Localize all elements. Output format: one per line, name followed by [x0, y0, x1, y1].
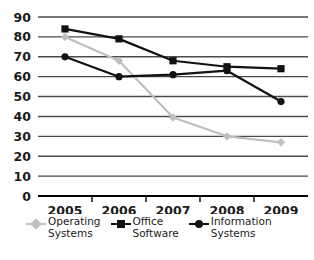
y-tick-label: 60: [14, 69, 32, 84]
legend-marker-diamond-icon: [26, 217, 46, 231]
y-tick-label: 20: [14, 149, 32, 164]
x-tick-label: 2008: [210, 203, 245, 214]
x-axis: [38, 196, 308, 202]
plot-area: 9080706050403020100 20052006200720082009: [0, 0, 314, 214]
legend-item[interactable]: Operating Systems: [26, 216, 101, 239]
data-point-marker: [115, 73, 122, 80]
y-tick-label: 0: [22, 189, 31, 204]
y-tick-label: 50: [14, 89, 32, 104]
data-point-marker: [169, 71, 176, 78]
data-point-marker: [277, 65, 284, 72]
chart-canvas: 9080706050403020100 20052006200720082009: [0, 0, 314, 214]
x-tick-label: 2009: [264, 203, 299, 214]
gridlines: [38, 17, 308, 176]
data-series: [61, 33, 285, 147]
legend-label: Operating Systems: [46, 216, 101, 239]
data-point-marker: [61, 25, 68, 32]
legend-label: Information Systems: [209, 216, 272, 239]
y-tick-label: 30: [14, 129, 32, 144]
y-tick-label: 40: [14, 109, 32, 124]
x-tick-label: 2006: [102, 203, 137, 214]
chart-legend: Operating SystemsOffice SoftwareInformat…: [0, 216, 314, 260]
y-tick-label: 90: [14, 10, 32, 25]
data-point-marker: [223, 67, 230, 74]
y-tick-label: 10: [14, 169, 32, 184]
y-tick-label: 70: [14, 49, 32, 64]
legend-item[interactable]: Office Software: [111, 216, 179, 239]
legend-label: Office Software: [131, 216, 179, 239]
data-point-marker: [61, 53, 68, 60]
y-axis-tick-labels: 9080706050403020100: [14, 10, 32, 204]
data-series-group: [61, 25, 285, 146]
data-point-marker: [169, 57, 176, 64]
data-series: [61, 25, 284, 72]
x-tick-label: 2005: [48, 203, 83, 214]
legend-marker-circle-icon: [189, 217, 209, 231]
data-point-marker: [223, 132, 231, 140]
data-point-marker: [277, 98, 284, 105]
legend-item[interactable]: Information Systems: [189, 216, 272, 239]
line-chart: 9080706050403020100 20052006200720082009…: [0, 0, 314, 260]
x-tick-label: 2007: [156, 203, 191, 214]
data-point-marker: [61, 33, 69, 41]
data-point-marker: [277, 138, 285, 146]
data-point-marker: [115, 35, 122, 42]
x-axis-tick-labels: 20052006200720082009: [48, 203, 299, 214]
series-line: [65, 37, 281, 142]
legend-marker-square-icon: [111, 217, 131, 231]
y-tick-label: 80: [14, 29, 32, 44]
